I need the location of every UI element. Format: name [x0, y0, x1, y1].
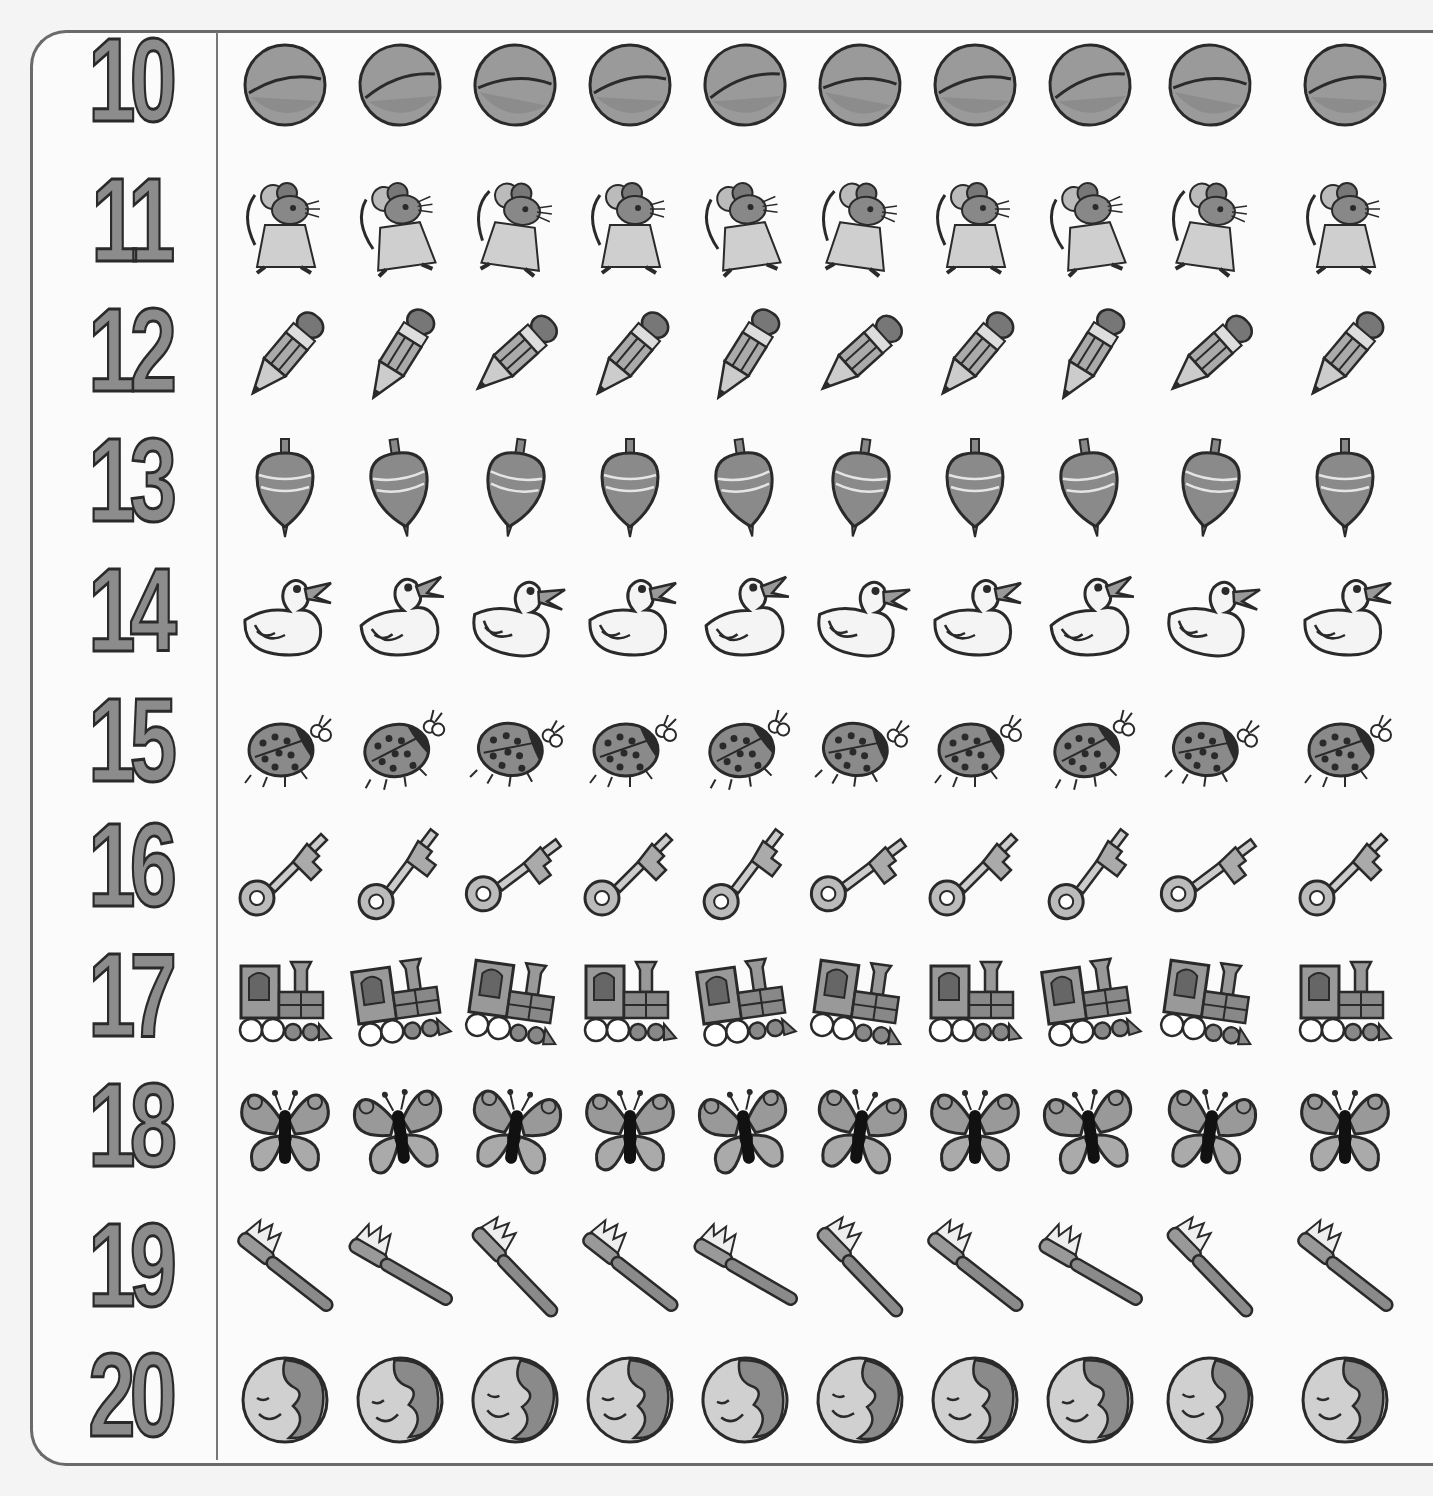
butterfly-icon	[1160, 1080, 1260, 1180]
mouse-icon	[695, 175, 795, 275]
counting-row-13: 13	[0, 420, 1410, 550]
moon-icon	[810, 1350, 910, 1450]
ladybug-icon	[810, 695, 910, 795]
spinning-top-icon	[810, 435, 910, 535]
toothbrush-icon	[580, 1220, 680, 1320]
row-number-label: 12	[88, 291, 171, 409]
spinning-top-icon	[465, 435, 565, 535]
ball-icon	[235, 35, 335, 135]
counting-row-11: 11	[0, 160, 1410, 290]
mouse-icon	[1040, 175, 1140, 275]
toothbrush-icon	[925, 1220, 1025, 1320]
counting-row-20: 20	[0, 1335, 1410, 1465]
duck-icon	[235, 565, 335, 665]
row-number-label: 14	[88, 551, 171, 669]
key-icon	[1295, 820, 1395, 920]
butterfly-icon	[1040, 1080, 1140, 1180]
toothbrush-icon	[350, 1220, 450, 1320]
train-icon	[810, 950, 910, 1050]
counting-row-17: 17	[0, 935, 1410, 1065]
mouse-icon	[465, 175, 565, 275]
duck-icon	[1295, 565, 1395, 665]
row-number: 20	[60, 1335, 200, 1455]
key-icon	[235, 820, 335, 920]
toothbrush-icon	[1295, 1220, 1395, 1320]
key-icon	[1040, 820, 1140, 920]
row-number: 18	[60, 1065, 200, 1185]
toothbrush-icon	[235, 1220, 335, 1320]
butterfly-icon	[1295, 1080, 1395, 1180]
mouse-icon	[810, 175, 910, 275]
butterfly-icon	[925, 1080, 1025, 1180]
mouse-icon	[235, 175, 335, 275]
mouse-icon	[580, 175, 680, 275]
ladybug-icon	[465, 695, 565, 795]
row-number-label: 16	[88, 806, 171, 924]
counting-row-10: 10	[0, 20, 1410, 150]
moon-icon	[1040, 1350, 1140, 1450]
ball-icon	[695, 35, 795, 135]
ball-icon	[925, 35, 1025, 135]
row-number-label: 17	[88, 936, 171, 1054]
ladybug-icon	[1160, 695, 1260, 795]
train-icon	[465, 950, 565, 1050]
spinning-top-icon	[580, 435, 680, 535]
spinning-top-icon	[1160, 435, 1260, 535]
row-number-label: 20	[88, 1336, 171, 1454]
pencil-icon	[580, 305, 680, 405]
train-icon	[350, 950, 450, 1050]
duck-icon	[695, 565, 795, 665]
duck-icon	[465, 565, 565, 665]
pencil-icon	[925, 305, 1025, 405]
train-icon	[1160, 950, 1260, 1050]
duck-icon	[350, 565, 450, 665]
toothbrush-icon	[695, 1220, 795, 1320]
train-icon	[695, 950, 795, 1050]
butterfly-icon	[465, 1080, 565, 1180]
row-number: 15	[60, 680, 200, 800]
row-number: 11	[60, 160, 200, 280]
pencil-icon	[1160, 305, 1260, 405]
key-icon	[1160, 820, 1260, 920]
moon-icon	[1295, 1350, 1395, 1450]
moon-icon	[695, 1350, 795, 1450]
pencil-icon	[695, 305, 795, 405]
pencil-icon	[465, 305, 565, 405]
row-number: 16	[60, 805, 200, 925]
ball-icon	[580, 35, 680, 135]
row-number-label: 11	[91, 161, 169, 279]
butterfly-icon	[810, 1080, 910, 1180]
mouse-icon	[350, 175, 450, 275]
pencil-icon	[235, 305, 335, 405]
moon-icon	[465, 1350, 565, 1450]
train-icon	[580, 950, 680, 1050]
train-icon	[235, 950, 335, 1050]
ball-icon	[350, 35, 450, 135]
ladybug-icon	[235, 695, 335, 795]
row-number: 10	[60, 20, 200, 140]
key-icon	[350, 820, 450, 920]
key-icon	[925, 820, 1025, 920]
row-number: 14	[60, 550, 200, 670]
row-number: 12	[60, 290, 200, 410]
spinning-top-icon	[350, 435, 450, 535]
moon-icon	[235, 1350, 335, 1450]
train-icon	[1295, 950, 1395, 1050]
ball-icon	[1295, 35, 1395, 135]
key-icon	[465, 820, 565, 920]
ball-icon	[1040, 35, 1140, 135]
counting-row-15: 15	[0, 680, 1410, 810]
counting-row-12: 12	[0, 290, 1410, 420]
row-number: 17	[60, 935, 200, 1055]
row-number: 19	[60, 1205, 200, 1325]
duck-icon	[925, 565, 1025, 665]
ladybug-icon	[1295, 695, 1395, 795]
mouse-icon	[925, 175, 1025, 275]
pencil-icon	[350, 305, 450, 405]
duck-icon	[810, 565, 910, 665]
toothbrush-icon	[1160, 1220, 1260, 1320]
pencil-icon	[810, 305, 910, 405]
ladybug-icon	[1040, 695, 1140, 795]
row-number-label: 10	[88, 21, 171, 139]
duck-icon	[1040, 565, 1140, 665]
